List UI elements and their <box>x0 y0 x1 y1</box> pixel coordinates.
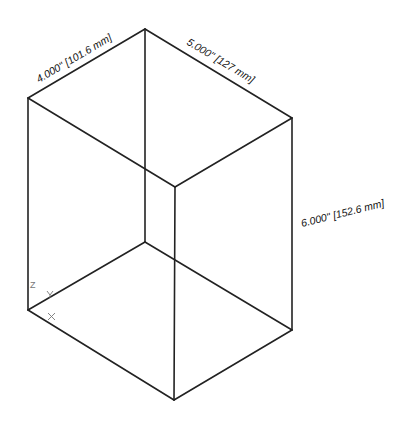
edge-bottom-front-left <box>28 310 174 400</box>
y-axis-marker-icon <box>47 291 53 298</box>
edge-bottom-back-left <box>28 242 145 310</box>
edge-front-vertical <box>174 187 175 400</box>
x-axis-marker-icon <box>48 313 55 320</box>
edge-top-front-right <box>175 118 292 187</box>
width-dimension-label: 4.000" [101.6 mm] <box>34 30 115 84</box>
edge-top-right <box>145 29 292 118</box>
edge-bottom-back-right <box>145 242 292 330</box>
z-axis-label: Z <box>30 280 36 290</box>
isometric-box-drawing: 4.000" [101.6 mm] 5.000" [127 mm] 6.000"… <box>0 0 407 428</box>
edge-top-front-left <box>28 98 175 187</box>
dimension-labels: 4.000" [101.6 mm] 5.000" [127 mm] 6.000"… <box>34 30 387 228</box>
box-edges <box>28 29 292 400</box>
edge-top-left <box>28 29 145 98</box>
edge-bottom-front-right <box>174 330 292 400</box>
height-dimension-label: 6.000" [152.6 mm] <box>300 196 387 229</box>
